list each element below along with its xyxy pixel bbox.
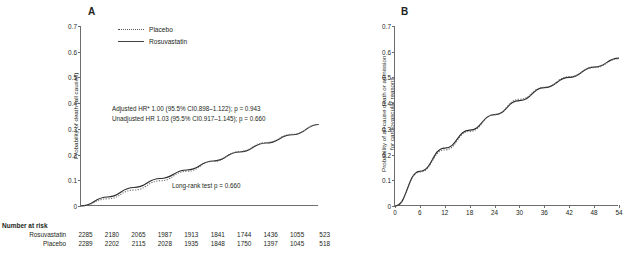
y-tick-label: 0.7: [47, 23, 81, 30]
y-tick-label: 0.6: [361, 48, 395, 55]
y-tick-label: 0.3: [47, 125, 81, 132]
x-tick-label: 24: [491, 209, 498, 216]
risk-row-value: 1055: [278, 230, 304, 239]
legend-item-rosuvastatin: Rosuvastatin: [118, 38, 187, 45]
x-tick-mark: [619, 205, 620, 208]
risk-row-label: Placebo: [2, 239, 66, 248]
risk-row-value: 2285: [66, 230, 92, 239]
legend-label: Placebo: [149, 26, 173, 33]
panel-a-legend: PlaceboRosuvastatin: [118, 26, 187, 45]
x-tick-label: 30: [516, 209, 523, 216]
legend-line-swatch: [118, 29, 144, 30]
legend-line-swatch: [118, 41, 144, 42]
risk-row-value: 1935: [172, 239, 198, 248]
y-tick-label: 0.7: [361, 23, 395, 30]
risk-row-value: 2180: [93, 230, 119, 239]
x-tick-label: 6: [418, 209, 422, 216]
x-tick-label: 42: [566, 209, 573, 216]
y-tick-label: 0.1: [47, 177, 81, 184]
hr-annotation-line: Adjusted HR* 1.00 (95.5% CI0.898–1.122);…: [112, 104, 266, 114]
panel-a-logrank-annotation: Long-rank test p = 0.660: [172, 181, 240, 191]
legend-label: Rosuvastatin: [149, 38, 187, 45]
y-tick-label: 0.2: [361, 151, 395, 158]
y-tick-label: 0: [361, 203, 395, 210]
risk-row-value: 1987: [146, 230, 172, 239]
curve-rosuvastatin: [81, 124, 319, 206]
panel-b-curves: [395, 26, 619, 206]
y-tick-label: 0: [47, 203, 81, 210]
panel-a-risk-table: Rosuvastatin2285218020651987191318411744…: [2, 230, 330, 249]
risk-row-value: 2202: [93, 239, 119, 248]
panel-b: B Probability of all-cause death or admi…: [318, 0, 633, 264]
risk-row-value: 1045: [278, 239, 304, 248]
risk-row-value: 2065: [119, 230, 145, 239]
risk-row-value: 2028: [146, 239, 172, 248]
risk-row-value: 1750: [225, 239, 251, 248]
risk-row-value: 1436: [251, 230, 277, 239]
y-tick-label: 0.5: [47, 74, 81, 81]
panel-a-hr-annotations: Adjusted HR* 1.00 (95.5% CI0.898–1.122);…: [112, 104, 266, 124]
panel-a: A Probability of death (all causes) 0.70…: [0, 0, 330, 264]
curve-placebo: [395, 59, 619, 206]
risk-row-label: Rosuvastatin: [2, 230, 66, 239]
panel-a-number-at-risk: Number at risk Rosuvastatin2285218020651…: [2, 222, 330, 249]
y-tick-label: 0.1: [361, 177, 395, 184]
x-tick-label: 36: [541, 209, 548, 216]
y-tick-label: 0.3: [361, 125, 395, 132]
risk-row-value: 2115: [119, 239, 145, 248]
legend-item-placebo: Placebo: [118, 26, 187, 33]
table-row: Rosuvastatin2285218020651987191318411744…: [2, 230, 330, 239]
risk-row-value: 1744: [225, 230, 251, 239]
x-tick-label: 48: [591, 209, 598, 216]
risk-row-value: 2289: [66, 239, 92, 248]
y-tick-mark: [78, 206, 81, 207]
km-survival-figure: A Probability of death (all causes) 0.70…: [0, 0, 633, 264]
panel-b-letter: B: [401, 6, 408, 17]
y-tick-label: 0.5: [361, 74, 395, 81]
x-tick-label: 54: [615, 209, 622, 216]
x-tick-label: 0: [393, 209, 397, 216]
y-tick-label: 0.6: [47, 48, 81, 55]
panel-b-plot-area: Probability of all-cause death or admiss…: [394, 26, 618, 206]
risk-row-value: 1841: [198, 230, 224, 239]
y-tick-label: 0.4: [361, 100, 395, 107]
panel-a-letter: A: [88, 6, 95, 17]
y-tick-label: 0.2: [47, 151, 81, 158]
hr-annotation-line: Unadjusted HR 1.03 (95.5% CI0.917–1.145)…: [112, 114, 266, 124]
x-tick-label: 12: [441, 209, 448, 216]
risk-row-value: 1397: [251, 239, 277, 248]
x-tick-label: 18: [466, 209, 473, 216]
y-tick-label: 0.4: [47, 100, 81, 107]
table-row: Placebo228922022115202819351848175013971…: [2, 239, 330, 248]
panel-a-number-at-risk-title: Number at risk: [2, 222, 330, 229]
risk-row-value: 1913: [172, 230, 198, 239]
curve-rosuvastatin: [395, 58, 619, 206]
risk-row-value: 1848: [198, 239, 224, 248]
